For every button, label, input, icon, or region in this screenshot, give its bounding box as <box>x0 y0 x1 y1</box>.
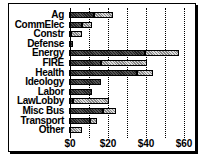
bar-series-1 <box>69 108 103 114</box>
x-tick-label: $0 <box>64 138 75 149</box>
bar-series-2 <box>137 70 152 76</box>
bar-series-1 <box>69 79 101 85</box>
bar-series-1 <box>69 118 90 124</box>
x-tick-label: $20 <box>100 138 117 149</box>
bar-series-2 <box>90 118 98 124</box>
gridline <box>165 8 166 138</box>
bar-series-1 <box>69 50 145 56</box>
bar-chart: $0$20$40$60AgCommElecConstrDefenseEnergy… <box>0 0 199 156</box>
bar-series-2 <box>103 108 116 114</box>
y-axis-line <box>70 8 71 138</box>
x-tick-label: $40 <box>138 138 155 149</box>
bar-series-1 <box>69 70 137 76</box>
bar-series-2 <box>94 12 113 18</box>
bar-series-1 <box>69 89 92 95</box>
gridline <box>184 8 185 138</box>
bar-series-2 <box>82 22 92 28</box>
bar-series-2 <box>145 50 179 56</box>
bar-series-2 <box>71 31 82 37</box>
bar-series-1 <box>69 60 101 66</box>
bar-series-1 <box>69 12 94 18</box>
bar-series-2 <box>101 60 147 66</box>
bar-series-2 <box>73 98 109 104</box>
category-label: Other <box>39 125 64 135</box>
x-tick-label: $60 <box>176 138 193 149</box>
